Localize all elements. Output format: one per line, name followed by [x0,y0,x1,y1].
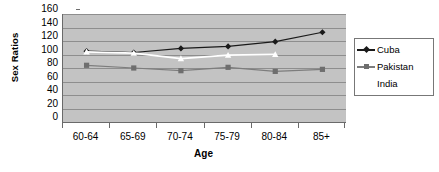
x-tick-label: 70-74 [167,131,193,142]
x-axis-tick-marks [62,123,345,131]
legend-label: Pakistan [377,62,413,72]
x-axis-tick-labels: 60-6465-6970-7475-7980-8485+ [52,131,355,145]
legend-item-cuba[interactable]: Cuba [355,42,435,58]
data-point [131,65,136,70]
y-tick-label: 100 [18,45,58,55]
legend-marker-icon [355,43,377,57]
x-tick-label: 75-79 [214,131,240,142]
data-point [320,67,325,72]
y-tick-label: 140 [18,18,58,28]
y-tick-label: 0 [18,112,58,122]
legend-item-india[interactable]: India [355,76,435,92]
series-canvas [63,14,346,122]
x-tick-mark [298,123,299,128]
y-tick-label: 60 [18,72,58,82]
series-line [87,32,323,52]
data-point [272,39,278,45]
x-tick-label: 65-69 [120,131,146,142]
y-tick-mark [76,9,80,10]
x-tick-mark [344,123,345,128]
chart-legend: CubaPakistanIndia [354,38,434,96]
legend-item-pakistan[interactable]: Pakistan [355,59,435,75]
data-point [225,43,231,49]
x-tick-label: 80-84 [261,131,287,142]
x-tick-mark [109,123,110,128]
y-tick-label: 20 [18,99,58,109]
y-tick-label: 40 [18,85,58,95]
series-cuba [83,29,325,55]
data-point [178,68,183,73]
x-tick-mark [204,123,205,128]
series-line [87,65,323,71]
data-point [84,63,89,68]
sex-ratios-line-chart: Sex Ratios 020406080100120140160 60-6465… [0,0,439,172]
series-pakistan [84,63,325,74]
y-tick-label: 80 [18,58,58,68]
y-tick-label: 160 [18,4,58,14]
x-tick-mark [62,123,63,128]
x-tick-label: 85+ [313,131,330,142]
x-axis-title: Age [62,148,345,159]
data-point [178,45,184,51]
data-point [225,65,230,70]
y-axis-tick-labels: 020406080100120140160 [18,9,58,129]
y-tick-label: 120 [18,31,58,41]
legend-label: India [377,79,398,89]
data-point [273,69,278,74]
plot-area [62,14,346,123]
x-tick-label: 60-64 [73,131,99,142]
data-point [319,29,325,35]
legend-marker-icon [355,77,377,91]
legend-marker-icon [355,60,377,74]
x-tick-mark [251,123,252,128]
x-tick-mark [156,123,157,128]
legend-label: Cuba [377,45,400,55]
